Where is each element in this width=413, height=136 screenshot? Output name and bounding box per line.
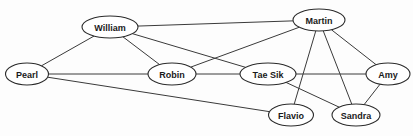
- node-label: Amy: [378, 70, 398, 80]
- node-label: Sandra: [341, 111, 373, 121]
- node-label: Pearl: [16, 70, 38, 80]
- graph-edge: [132, 34, 245, 68]
- graph-edge: [138, 21, 293, 26]
- graph-node-sandra[interactable]: Sandra: [332, 104, 380, 126]
- graph-edge: [123, 37, 160, 65]
- node-layer: WilliamMartinPearlRobinTae SikAmyFlavioS…: [6, 9, 411, 126]
- node-label: Tae Sik: [253, 70, 285, 80]
- graph-node-robin[interactable]: Robin: [148, 63, 196, 85]
- graph-node-martin[interactable]: Martin: [293, 9, 345, 31]
- node-label: William: [94, 23, 125, 33]
- graph-node-flavio[interactable]: Flavio: [269, 104, 314, 126]
- graph-node-taesik[interactable]: Tae Sik: [240, 63, 296, 85]
- graph-edge: [364, 84, 380, 104]
- graph-edge: [331, 30, 376, 65]
- network-graph-diagram: WilliamMartinPearlRobinTae SikAmyFlavioS…: [0, 0, 413, 136]
- node-label: Robin: [159, 70, 185, 80]
- graph-edge: [294, 31, 316, 104]
- graph-node-amy[interactable]: Amy: [366, 63, 410, 85]
- graph-canvas: WilliamMartinPearlRobinTae SikAmyFlavioS…: [0, 0, 413, 136]
- node-label: Flavio: [278, 111, 305, 121]
- node-label: Martin: [306, 16, 333, 26]
- graph-node-pearl[interactable]: Pearl: [6, 63, 49, 85]
- graph-node-william[interactable]: William: [82, 16, 138, 38]
- graph-edge: [41, 36, 94, 66]
- graph-edge: [191, 27, 300, 67]
